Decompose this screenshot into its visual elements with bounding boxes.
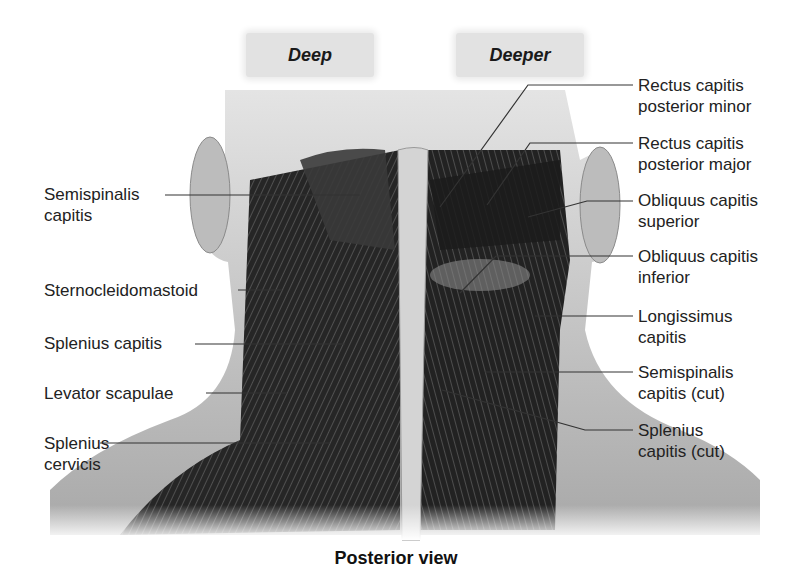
label-splenius-capitis-cut: Splenius capitis (cut) (638, 420, 725, 462)
view-tag-deeper: Deeper (456, 33, 584, 77)
figure-caption: Posterior view (0, 548, 792, 569)
label-line: superior (638, 211, 758, 232)
label-line: capitis (cut) (638, 441, 725, 462)
label-line: Splenius capitis (44, 333, 162, 354)
label-line: posterior minor (638, 96, 751, 117)
label-rectus-capitis-posterior-major: Rectus capitis posterior major (638, 133, 751, 175)
label-obliquus-capitis-superior: Obliquus capitis superior (638, 190, 758, 232)
label-line: Splenius (44, 433, 109, 454)
view-tag-deep: Deep (246, 33, 374, 77)
label-line: Longissimus (638, 306, 733, 327)
label-line: capitis (638, 327, 733, 348)
label-line: capitis (44, 205, 139, 226)
label-line: capitis (cut) (638, 383, 733, 404)
label-levator-scapulae: Levator scapulae (44, 383, 173, 404)
label-line: inferior (638, 267, 758, 288)
label-line: Semispinalis (638, 362, 733, 383)
label-splenius-capitis: Splenius capitis (44, 333, 162, 354)
label-line: cervicis (44, 454, 109, 475)
label-splenius-cervicis: Splenius cervicis (44, 433, 109, 475)
label-longissimus-capitis: Longissimus capitis (638, 306, 733, 348)
label-line: posterior major (638, 154, 751, 175)
label-line: Sternocleidomastoid (44, 280, 198, 301)
label-line: Rectus capitis (638, 133, 751, 154)
label-obliquus-capitis-inferior: Obliquus capitis inferior (638, 246, 758, 288)
view-tag-label: Deeper (489, 45, 550, 66)
label-line: Rectus capitis (638, 75, 751, 96)
label-line: Splenius (638, 420, 725, 441)
label-semispinalis-capitis: Semispinalis capitis (44, 184, 139, 226)
label-line: Semispinalis (44, 184, 139, 205)
label-sternocleidomastoid: Sternocleidomastoid (44, 280, 198, 301)
label-line: Obliquus capitis (638, 190, 758, 211)
label-rectus-capitis-posterior-minor: Rectus capitis posterior minor (638, 75, 751, 117)
label-line: Levator scapulae (44, 383, 173, 404)
label-semispinalis-capitis-cut: Semispinalis capitis (cut) (638, 362, 733, 404)
view-tag-label: Deep (288, 45, 332, 66)
label-line: Obliquus capitis (638, 246, 758, 267)
